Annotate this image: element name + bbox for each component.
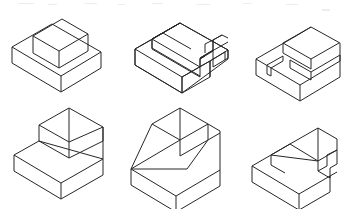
figure-4-base-slab-with-chamfer-block xyxy=(14,108,103,199)
figure-6-base-slab-with-chamfered-rib-notch xyxy=(252,128,337,209)
figure-3-base-slab-with-step-and-groove xyxy=(256,27,340,101)
isometric-figure-sheet xyxy=(0,0,348,209)
figure-2-base-slab-with-stepped-rib-notch xyxy=(135,23,228,93)
figure-5-base-slab-with-wedge-ramp xyxy=(131,108,220,209)
isometric-drawings-canvas xyxy=(0,0,348,209)
figure-1-base-slab-with-centered-block xyxy=(12,19,101,92)
